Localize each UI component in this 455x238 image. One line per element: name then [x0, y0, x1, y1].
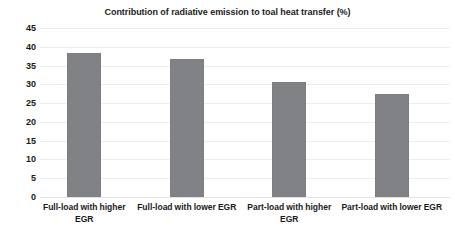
y-tick-label: 10: [0, 155, 36, 164]
y-tick-label: 5: [0, 174, 36, 183]
x-tick-label: Full-load with higher EGR: [33, 201, 136, 225]
bar: [272, 82, 306, 197]
gridline: [40, 84, 450, 85]
gridline: [40, 47, 450, 48]
y-tick-label: 45: [0, 24, 36, 33]
gridline: [40, 28, 450, 29]
gridline: [40, 66, 450, 67]
y-tick-label: 20: [0, 117, 36, 126]
y-axis: 454035302520151050: [0, 28, 36, 197]
x-axis: Full-load with higher EGRFull-load with …: [40, 201, 450, 238]
y-tick-label: 30: [0, 80, 36, 89]
x-tick-label: Full-load with lower EGR: [136, 201, 239, 213]
chart-title: Contribution of radiative emission to to…: [0, 7, 455, 17]
bar: [375, 94, 409, 197]
x-tick-label: Part-load with higher EGR: [238, 201, 341, 225]
bar: [170, 59, 204, 197]
x-tick-label: Part-load with lower EGR: [341, 201, 444, 213]
plot-area: [40, 28, 450, 197]
bar-chart: Contribution of radiative emission to to…: [0, 0, 455, 238]
bar: [67, 53, 101, 197]
y-tick-label: 0: [0, 193, 36, 202]
y-tick-label: 15: [0, 136, 36, 145]
y-tick-label: 25: [0, 99, 36, 108]
gridline: [40, 197, 450, 198]
y-tick-label: 40: [0, 42, 36, 51]
y-tick-label: 35: [0, 61, 36, 70]
